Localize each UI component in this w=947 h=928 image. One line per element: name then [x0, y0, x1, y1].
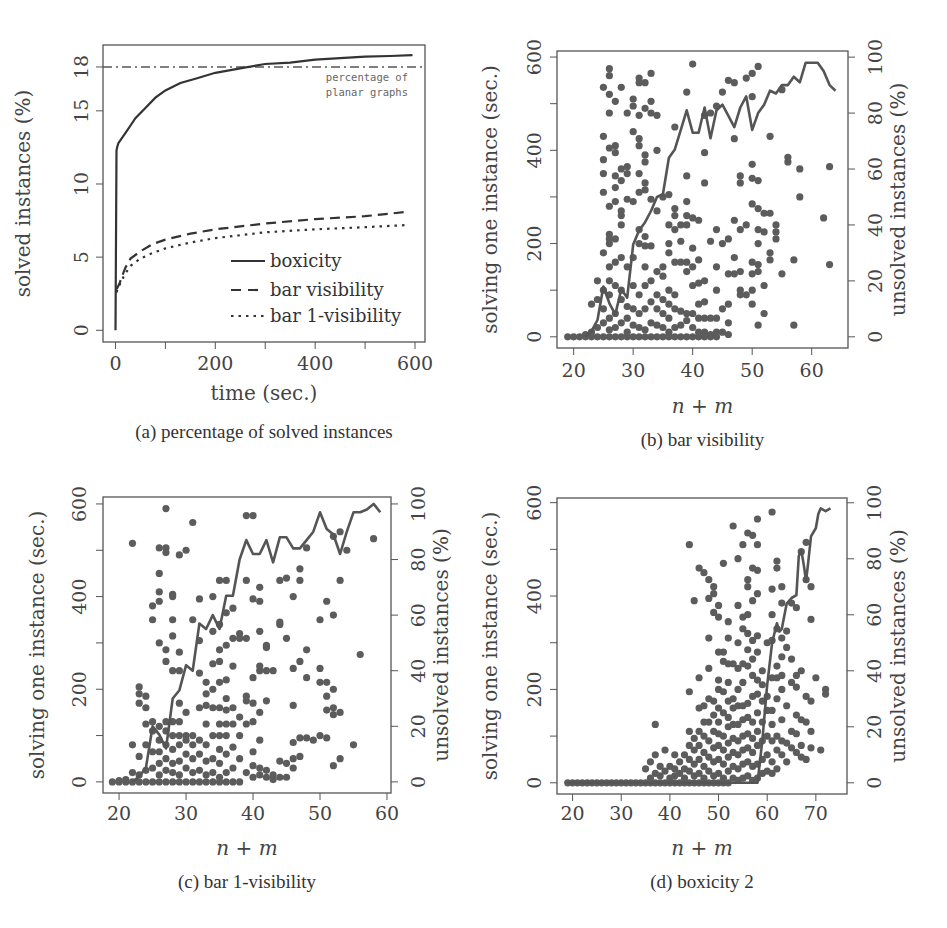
y-right-tick-label: 80 — [407, 547, 429, 571]
y-right-axis-title: unsolved instances (%) — [886, 83, 910, 316]
x-axis: 2030405060 — [107, 793, 399, 824]
y-tick-label: 10 — [70, 172, 92, 196]
y-right-tick-label: 20 — [407, 714, 429, 738]
y-tick-label: 400 — [68, 578, 90, 614]
y-axis-left: 0200400600 — [523, 39, 557, 343]
y-right-axis-title: unsolved instances (%) — [429, 528, 453, 761]
y-axis-right: 020406080100 — [391, 486, 429, 788]
y-right-tick-label: 0 — [407, 776, 429, 788]
plot-area — [109, 504, 381, 786]
y-tick-label: 400 — [523, 578, 545, 614]
y-axis-title: solving one instance (sec.) — [478, 65, 502, 334]
y-axis-left: 0200400600 — [523, 485, 557, 789]
y-right-tick-label: 100 — [863, 485, 885, 521]
x-axis: 0200400600 — [109, 342, 433, 374]
y-right-tick-label: 100 — [864, 39, 886, 75]
y-axis-left: 0200400600 — [68, 486, 103, 788]
y-axis-title: solving one instance (sec.) — [25, 511, 49, 780]
legend: boxicitybar visibilitybar 1-visibility — [231, 250, 402, 326]
y-tick-label: 600 — [523, 485, 545, 521]
y-right-tick-label: 60 — [864, 157, 886, 181]
y-right-tick-label: 80 — [863, 547, 885, 571]
x-tick-label: 30 — [174, 802, 198, 824]
x-axis-title: n + m — [671, 836, 732, 860]
y-right-axis-title: unsolved instances (%) — [886, 529, 910, 762]
x-tick-label: 50 — [706, 802, 730, 824]
y-axis-left: 05101518 — [70, 55, 103, 336]
y-right-tick-label: 20 — [864, 269, 886, 293]
x-tick-label: 600 — [397, 352, 433, 374]
y-right-tick-label: 40 — [863, 659, 885, 683]
panel-b-bar-visibility: 20304050600200400600020406080100unsolved… — [478, 39, 910, 451]
x-tick-label: 60 — [375, 802, 399, 824]
x-tick-label: 400 — [297, 352, 333, 374]
y-axis-title: solving one instance (sec.) — [478, 512, 502, 781]
y-tick-label: 400 — [523, 132, 545, 168]
x-tick-label: 20 — [560, 802, 584, 824]
y-right-tick-label: 0 — [864, 331, 886, 343]
panel-a-percentage-solved: 020040060005101518time (sec.)solved inst… — [11, 45, 433, 443]
legend-item: bar 1-visibility — [270, 305, 402, 326]
y-tick-label: 200 — [68, 671, 90, 707]
scatter-points — [564, 508, 829, 786]
x-tick-label: 200 — [197, 352, 233, 374]
panel-caption: (a) percentage of solved instances — [135, 421, 392, 443]
y-right-tick-label: 40 — [407, 659, 429, 683]
legend-item: bar visibility — [270, 279, 385, 300]
panel-d-boxicity-2: 2030405060700200400600020406080100unsolv… — [478, 485, 910, 893]
x-axis-title: n + m — [216, 836, 277, 860]
y-right-tick-label: 100 — [407, 486, 429, 522]
y-tick-label: 5 — [70, 251, 92, 263]
plot-area — [564, 60, 835, 340]
panel-caption: (b) bar visibility — [641, 429, 765, 451]
x-axis-title: n + m — [672, 394, 733, 418]
x-tick-label: 60 — [755, 802, 779, 824]
reference-annotation: planar graphs — [326, 86, 408, 98]
x-tick-label: 60 — [800, 359, 824, 381]
y-right-tick-label: 20 — [863, 715, 885, 739]
unsolved-percentage-line — [568, 508, 831, 782]
y-right-tick-label: 80 — [864, 101, 886, 125]
x-axis: 203040506070 — [560, 794, 827, 824]
legend-item: boxicity — [270, 250, 342, 271]
y-axis-right: 020406080100 — [848, 39, 886, 343]
y-tick-label: 15 — [70, 99, 92, 123]
x-tick-label: 30 — [609, 802, 633, 824]
y-tick-label: 600 — [68, 486, 90, 522]
x-tick-label: 0 — [109, 352, 121, 374]
series-bar-visibility — [117, 212, 408, 289]
figure: 020040060005101518time (sec.)solved inst… — [0, 0, 947, 928]
plot-area — [564, 508, 830, 786]
y-tick-label: 200 — [523, 671, 545, 707]
x-tick-label: 40 — [681, 359, 705, 381]
y-tick-label: 0 — [68, 776, 90, 788]
panel-caption: (c) bar 1-visibility — [178, 871, 317, 893]
panel-caption: (d) boxicity 2 — [650, 871, 753, 893]
scatter-points — [564, 60, 833, 340]
y-right-tick-label: 60 — [407, 603, 429, 627]
x-tick-label: 40 — [241, 802, 265, 824]
y-tick-label: 600 — [523, 39, 545, 75]
x-tick-label: 20 — [562, 359, 586, 381]
panel-c-bar-1-visibility: 20304050600200400600020406080100unsolved… — [25, 486, 453, 893]
y-right-tick-label: 60 — [863, 603, 885, 627]
y-tick-label: 200 — [523, 225, 545, 261]
y-right-tick-label: 40 — [864, 213, 886, 237]
x-tick-label: 50 — [740, 359, 764, 381]
y-tick-label: 0 — [523, 777, 545, 789]
reference-annotation: percentage of — [326, 71, 408, 83]
x-axis-title: time (sec.) — [211, 381, 318, 405]
y-tick-label: 0 — [70, 324, 92, 336]
y-axis-title: solved instances (%) — [11, 90, 35, 298]
x-tick-label: 40 — [658, 802, 682, 824]
x-tick-label: 30 — [621, 359, 645, 381]
x-tick-label: 50 — [308, 802, 332, 824]
y-tick-label: 0 — [523, 331, 545, 343]
y-right-tick-label: 0 — [863, 777, 885, 789]
x-axis: 2030405060 — [562, 348, 824, 381]
x-tick-label: 20 — [107, 802, 131, 824]
x-tick-label: 70 — [804, 802, 828, 824]
y-tick-label: 18 — [70, 55, 92, 79]
y-axis-right: 020406080100 — [847, 485, 885, 789]
